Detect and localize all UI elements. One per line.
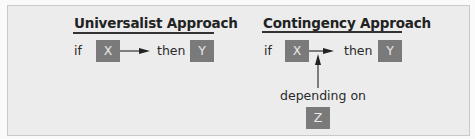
arrows-layer — [0, 0, 475, 139]
moderator-arrow-icon — [315, 54, 321, 88]
contingency-arrow-icon — [309, 48, 334, 54]
universalist-arrow-icon — [120, 48, 150, 54]
